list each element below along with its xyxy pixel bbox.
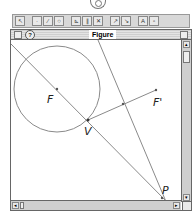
segment-V-Fprime[interactable] [88,90,156,120]
measure-tool-2-button[interactable]: ▫ [149,16,159,26]
point-F[interactable] [56,88,58,90]
resize-grow-box[interactable] [182,201,191,210]
circle-tool-button[interactable]: ○ [54,16,64,26]
title-bar[interactable]: ? Figure [11,30,191,40]
segment-tool-button[interactable]: ⁄ [43,16,53,26]
window-title: Figure [89,30,116,39]
help-icon[interactable]: ? [25,30,35,40]
construct-tool-2-button[interactable]: ∥ [82,16,92,26]
scroll-up-arrow-icon[interactable]: ▴ [183,41,190,48]
point-M[interactable] [122,103,124,105]
page-marker-icon [90,0,106,9]
horizontal-scroll-thumb[interactable] [20,202,24,209]
line-F-P[interactable] [11,44,169,202]
construct-tool-3-button[interactable]: ✕ [93,16,103,26]
line-bisector[interactable] [98,40,167,202]
transform-tool-2-button[interactable]: ↘ [121,16,131,26]
measure-tool-1-button[interactable]: A [138,16,148,26]
scroll-right-arrow-icon[interactable]: ▸ [173,202,180,209]
transform-tool-1-button[interactable]: ↗ [110,16,120,26]
geometry-figure: F F' V P [11,40,181,202]
figure-canvas[interactable]: F F' V P [11,40,181,202]
figure-window: ? Figure F F' V P ▴ ▾ [10,29,192,211]
construct-tool-1-button[interactable]: ⊾ [71,16,81,26]
vertical-scrollbar[interactable]: ▴ ▾ [181,40,191,202]
point-F-prime[interactable] [155,89,157,91]
label-F: F [47,93,54,106]
zoom-box-button[interactable] [180,31,188,39]
toolbar: ↖ · ⁄ ○ ⊾ ∥ ✕ ↗ ↘ A ▫ [12,14,190,28]
vertical-scroll-thumb[interactable] [183,51,190,63]
close-box-button[interactable] [14,31,22,39]
horizontal-scrollbar[interactable]: ◂ ▸ [11,200,181,210]
pointer-tool-button[interactable]: ↖ [15,16,25,26]
point-P[interactable] [161,197,163,199]
point-V[interactable] [87,119,90,122]
point-tool-button[interactable]: · [32,16,42,26]
label-F-prime: F' [153,96,162,109]
scroll-down-arrow-icon[interactable]: ▾ [183,194,190,201]
label-V: V [84,125,93,138]
scroll-left-arrow-icon[interactable]: ◂ [12,202,19,209]
label-P: P [162,184,169,197]
